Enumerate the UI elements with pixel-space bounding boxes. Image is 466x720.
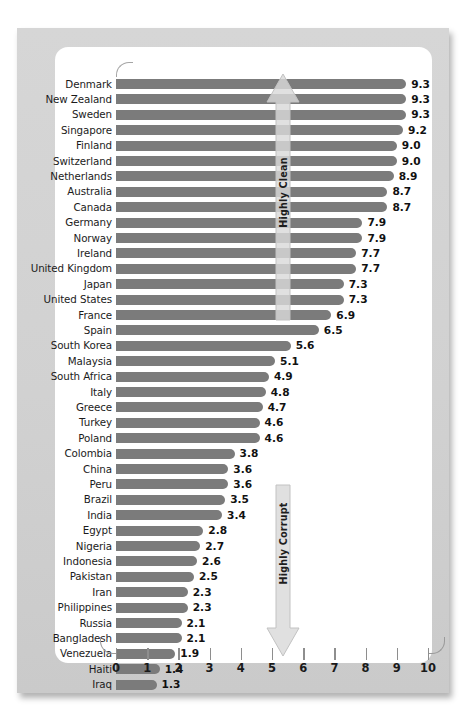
axis-tick (303, 648, 304, 660)
axis-tick-label: 5 (268, 661, 276, 675)
axis-tick-label: 10 (420, 661, 436, 675)
axis-tick (272, 648, 273, 660)
axis-tick (334, 648, 335, 660)
axis-tick-label: 6 (299, 661, 307, 675)
axis-tick (428, 648, 429, 660)
axis-tick-label: 1 (143, 661, 151, 675)
axis-tick (178, 648, 179, 660)
axis-tick-label: 0 (112, 661, 120, 675)
axis-tick-label: 8 (362, 661, 370, 675)
axis-tick (397, 648, 398, 660)
axis-tick (366, 648, 367, 660)
axis-tick (241, 648, 242, 660)
axis-tick (210, 648, 211, 660)
x-axis: 012345678910 (0, 0, 466, 720)
axis-left-curve (100, 637, 117, 654)
axis-tick (116, 648, 117, 660)
axis-tick-label: 4 (237, 661, 245, 675)
axis-right-curve (428, 637, 445, 654)
axis-tick (147, 648, 148, 660)
axis-tick-label: 7 (330, 661, 338, 675)
axis-tick-label: 3 (206, 661, 214, 675)
axis-tick-label: 9 (393, 661, 401, 675)
axis-tick-label: 2 (174, 661, 182, 675)
